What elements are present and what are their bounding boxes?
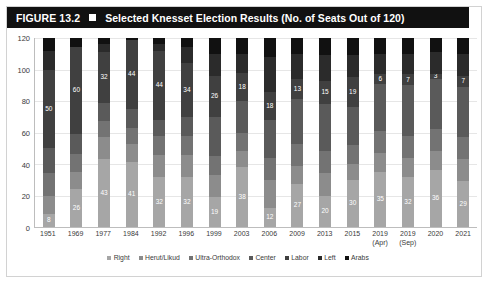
bar-segment[interactable] [70, 172, 82, 189]
bar-segment[interactable] [181, 155, 193, 177]
bar-segment[interactable] [319, 38, 331, 55]
bar-segment[interactable] [236, 54, 248, 73]
bar-column[interactable]: 3818 [228, 38, 256, 227]
bar-segment[interactable] [181, 117, 193, 136]
bar-column[interactable]: 1926 [201, 38, 229, 227]
bar-segment[interactable] [209, 117, 221, 156]
stacked-bar[interactable]: 2660 [70, 38, 82, 227]
bar-segment[interactable] [70, 134, 82, 154]
bar-segment[interactable] [43, 148, 55, 173]
bar-segment[interactable]: 32 [181, 177, 193, 227]
bar-column[interactable]: 363 [422, 38, 450, 227]
bar-segment[interactable]: 7 [457, 76, 469, 87]
bar-segment[interactable]: 35 [374, 172, 386, 227]
bar-segment[interactable]: 18 [236, 73, 248, 101]
bar-segment[interactable] [291, 99, 303, 143]
bar-segment[interactable] [126, 128, 138, 144]
bar-segment[interactable]: 26 [70, 189, 82, 227]
bar-segment[interactable]: 13 [291, 79, 303, 99]
bar-segment[interactable]: 44 [153, 51, 165, 120]
bar-segment[interactable] [402, 85, 414, 135]
bar-segment[interactable] [319, 55, 331, 80]
legend-item[interactable]: Center [249, 254, 276, 261]
bar-segment[interactable]: 18 [264, 92, 276, 120]
bar-segment[interactable] [236, 151, 248, 167]
bar-column[interactable]: 3019 [339, 38, 367, 227]
bar-segment[interactable] [264, 180, 276, 208]
bar-column[interactable]: 2713 [284, 38, 312, 227]
bar-segment[interactable] [347, 55, 359, 77]
bar-segment[interactable] [319, 173, 331, 195]
bar-segment[interactable]: 7 [402, 74, 414, 85]
bar-segment[interactable]: 19 [347, 77, 359, 107]
bar-segment[interactable] [264, 120, 276, 158]
bar-segment[interactable] [153, 44, 165, 50]
bar-segment[interactable]: 29 [457, 181, 469, 227]
bar-segment[interactable] [347, 38, 359, 55]
bar-segment[interactable]: 38 [236, 167, 248, 227]
bar-segment[interactable]: 15 [319, 81, 331, 105]
legend-item[interactable]: Left [318, 254, 336, 261]
stacked-bar[interactable]: 2015 [319, 38, 331, 227]
bar-segment[interactable]: 41 [126, 162, 138, 227]
bar-segment[interactable]: 36 [430, 170, 442, 227]
bar-segment[interactable] [209, 156, 221, 175]
bar-segment[interactable]: 32 [402, 177, 414, 227]
bar-segment[interactable] [70, 154, 82, 171]
bar-segment[interactable] [319, 104, 331, 151]
stacked-bar[interactable]: 3234 [181, 38, 193, 227]
bar-segment[interactable]: 20 [319, 196, 331, 228]
bar-segment[interactable]: 6 [374, 74, 386, 83]
bar-segment[interactable] [43, 51, 55, 70]
bar-segment[interactable] [98, 121, 110, 137]
bar-segment[interactable] [264, 57, 276, 92]
bar-segment[interactable] [402, 136, 414, 158]
bar-segment[interactable] [374, 153, 386, 172]
legend-item[interactable]: Herut/Likud [139, 254, 180, 261]
stacked-bar[interactable]: 3244 [153, 38, 165, 227]
bar-segment[interactable] [126, 144, 138, 163]
bar-segment[interactable] [457, 38, 469, 54]
bar-segment[interactable] [374, 38, 386, 54]
bar-column[interactable]: 327 [394, 38, 422, 227]
bar-segment[interactable] [430, 129, 442, 151]
bar-segment[interactable]: 30 [347, 180, 359, 227]
bar-column[interactable]: 2015 [311, 38, 339, 227]
legend-item[interactable]: Right [107, 254, 129, 261]
bar-segment[interactable]: 44 [126, 40, 138, 109]
stacked-bar[interactable]: 1218 [264, 38, 276, 227]
bar-segment[interactable] [430, 151, 442, 170]
bar-segment[interactable] [236, 38, 248, 54]
legend-item[interactable]: Ultra-Orthodox [189, 254, 240, 261]
bar-segment[interactable] [291, 54, 303, 79]
bar-segment[interactable] [374, 131, 386, 153]
bar-column[interactable]: 4144 [118, 38, 146, 227]
bar-segment[interactable] [153, 120, 165, 136]
bar-segment[interactable] [291, 38, 303, 54]
bar-segment[interactable] [126, 38, 138, 40]
stacked-bar[interactable]: 4144 [126, 38, 138, 227]
bar-segment[interactable] [291, 144, 303, 166]
bar-segment[interactable] [209, 54, 221, 76]
bar-segment[interactable] [43, 196, 55, 215]
bar-segment[interactable] [209, 38, 221, 54]
bar-segment[interactable] [43, 38, 55, 51]
bar-segment[interactable] [98, 103, 110, 122]
bar-segment[interactable] [153, 136, 165, 155]
bar-segment[interactable] [209, 175, 221, 197]
bar-segment[interactable] [374, 84, 386, 131]
bar-segment[interactable] [319, 151, 331, 173]
bar-segment[interactable] [98, 44, 110, 52]
stacked-bar[interactable]: 363 [430, 38, 442, 227]
bar-segment[interactable] [457, 159, 469, 181]
bar-segment[interactable] [402, 38, 414, 54]
bar-segment[interactable] [181, 38, 193, 47]
bar-segment[interactable]: 27 [291, 184, 303, 227]
bar-segment[interactable] [374, 54, 386, 74]
bar-column[interactable]: 2660 [63, 38, 91, 227]
stacked-bar[interactable]: 3818 [236, 38, 248, 227]
bar-column[interactable]: 3244 [146, 38, 174, 227]
bar-segment[interactable] [291, 166, 303, 185]
stacked-bar[interactable]: 4332 [98, 38, 110, 227]
bar-segment[interactable] [236, 101, 248, 133]
